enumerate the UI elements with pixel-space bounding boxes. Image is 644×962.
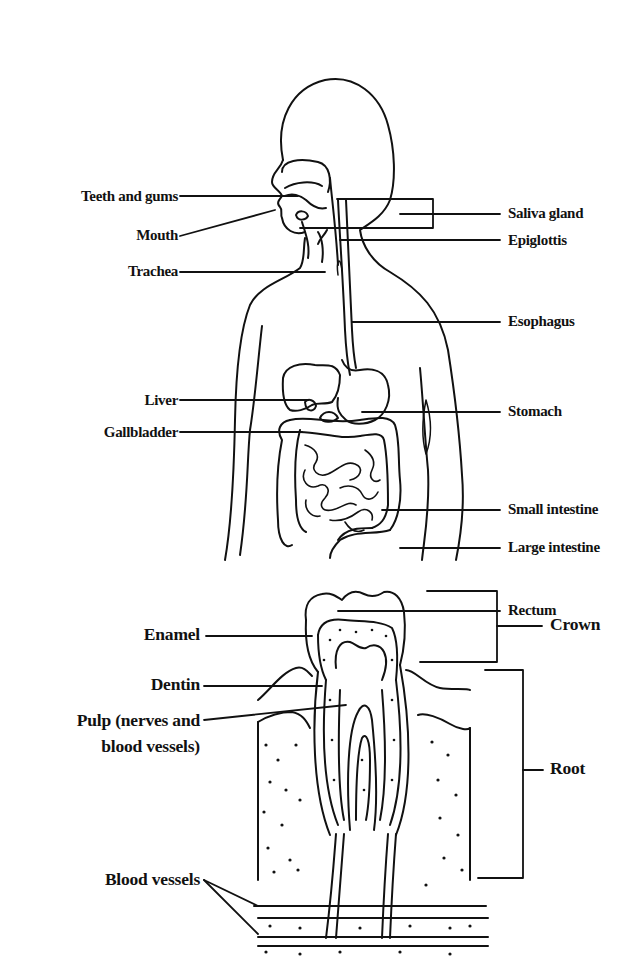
small-intestine-shape (303, 445, 380, 532)
label-epiglottis: Epiglottis (508, 233, 567, 248)
label-esophagus: Esophagus (508, 314, 575, 329)
abdominal-organs (283, 360, 389, 424)
label-stomach: Stomach (508, 404, 562, 419)
upper-leader-lines (180, 196, 500, 611)
label-pulp-line2: blood vessels) (20, 738, 200, 756)
anatomy-diagram: Teeth and gums Mouth Trachea Liver Gallb… (0, 0, 644, 962)
label-small-intestine: Small intestine (508, 502, 598, 517)
large-intestine-shape (277, 418, 400, 558)
esophagus-tube (337, 200, 356, 375)
label-enamel: Enamel (60, 626, 200, 644)
label-pulp-line1: Pulp (nerves and (20, 712, 200, 730)
label-mouth: Mouth (40, 228, 178, 243)
label-teeth-and-gums: Teeth and gums (40, 189, 178, 204)
label-large-intestine: Large intestine (508, 540, 600, 555)
label-liver: Liver (40, 393, 178, 408)
label-crown: Crown (550, 616, 600, 634)
label-root: Root (550, 760, 585, 778)
tooth-art (254, 592, 488, 946)
label-blood-vessels: Blood vessels (20, 871, 200, 889)
label-dentin: Dentin (60, 676, 200, 694)
label-saliva-gland: Saliva gland (508, 206, 583, 221)
diagram-artwork (0, 0, 644, 962)
label-rectum: Rectum (508, 603, 556, 618)
label-gallbladder: Gallbladder (40, 425, 178, 440)
head-cavities (282, 160, 338, 265)
tooth-leader-lines (204, 591, 543, 934)
label-trachea: Trachea (40, 264, 178, 279)
